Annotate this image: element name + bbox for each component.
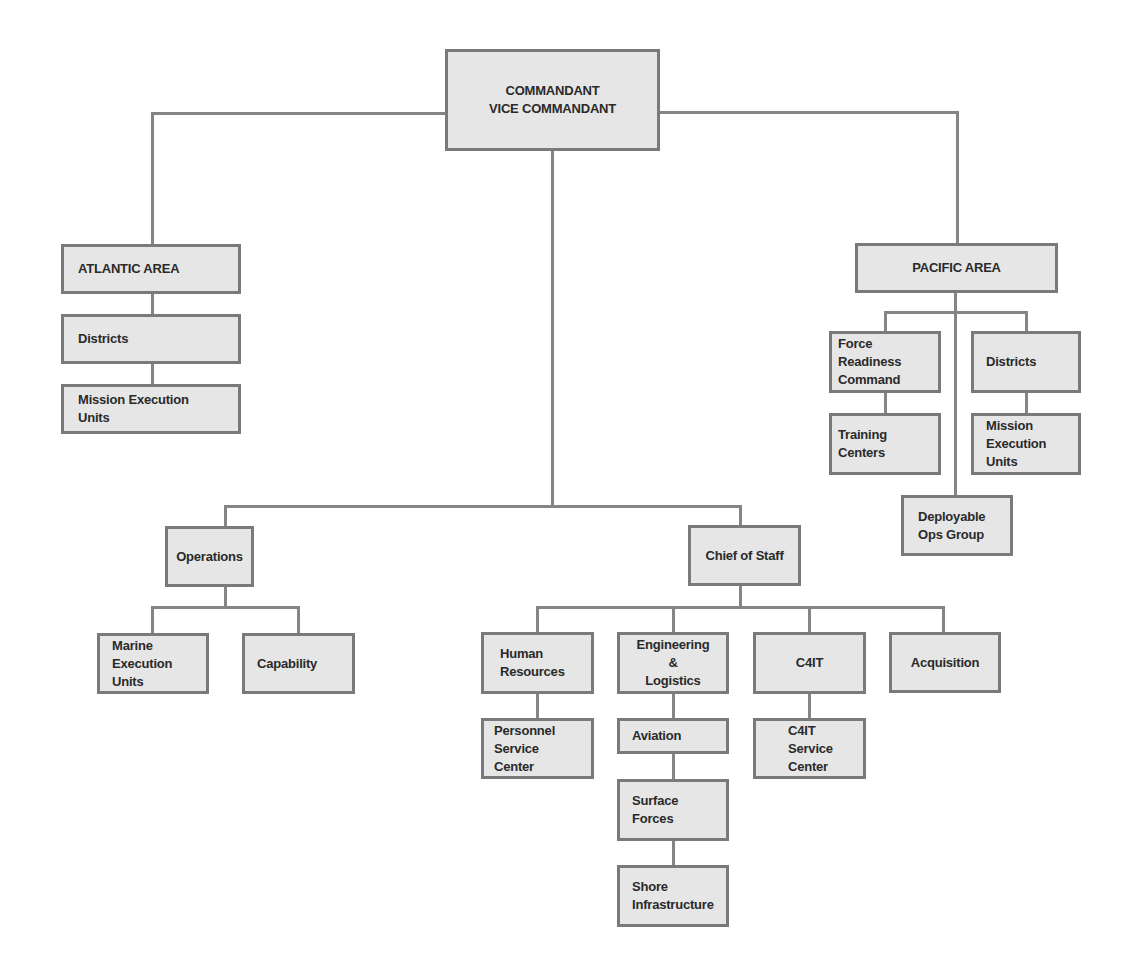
- operations-label: Operations: [176, 548, 243, 566]
- deployable-ops-label: Deployable Ops Group: [918, 508, 985, 544]
- pacific-mission-execution-label: Mission Execution Units: [986, 417, 1046, 471]
- connector-line: [739, 584, 742, 607]
- c4it-node[interactable]: C4IT: [753, 632, 866, 694]
- connector-line: [151, 292, 154, 315]
- connector-line: [536, 692, 539, 719]
- force-readiness-node[interactable]: Force Readiness Command: [829, 331, 941, 393]
- human-resources-node[interactable]: Human Resources: [481, 632, 594, 694]
- connector-line: [151, 112, 446, 115]
- connector-line: [151, 606, 300, 609]
- connector-line: [672, 752, 675, 780]
- pacific-area-label: PACIFIC AREA: [912, 259, 1001, 277]
- connector-line: [672, 839, 675, 866]
- atlantic-area-node[interactable]: ATLANTIC AREA: [61, 244, 241, 294]
- atlantic-mission-execution-label: Mission Execution Units: [78, 391, 189, 427]
- org-chart: COMMANDANT VICE COMMANDANT ATLANTIC AREA…: [0, 0, 1133, 968]
- connector-line: [151, 112, 154, 245]
- surface-forces-label: Surface Forces: [632, 792, 678, 828]
- connector-line: [884, 311, 887, 332]
- training-centers-node[interactable]: Training Centers: [829, 413, 941, 475]
- connector-line: [657, 111, 959, 114]
- connector-line: [1025, 392, 1028, 414]
- capability-label: Capability: [257, 655, 317, 673]
- atlantic-mission-execution-node[interactable]: Mission Execution Units: [61, 384, 241, 434]
- vice-commandant-label: VICE COMMANDANT: [489, 100, 616, 118]
- aviation-label: Aviation: [632, 727, 681, 745]
- connector-line: [536, 606, 539, 633]
- chief-of-staff-node[interactable]: Chief of Staff: [688, 525, 801, 586]
- connector-line: [224, 505, 227, 527]
- personnel-service-node[interactable]: Personnel Service Center: [481, 718, 594, 779]
- connector-line: [954, 291, 957, 496]
- shore-infrastructure-node[interactable]: Shore Infrastructure: [617, 865, 729, 927]
- pacific-mission-execution-node[interactable]: Mission Execution Units: [971, 413, 1081, 475]
- c4it-service-node[interactable]: C4IT Service Center: [753, 718, 866, 779]
- marine-execution-node[interactable]: Marine Execution Units: [97, 633, 209, 694]
- connector-line: [739, 505, 742, 526]
- engineering-logistics-node[interactable]: Engineering & Logistics: [617, 632, 729, 694]
- pacific-districts-label: Districts: [986, 353, 1036, 371]
- shore-infrastructure-label: Shore Infrastructure: [632, 878, 714, 914]
- connector-line: [808, 692, 811, 719]
- atlantic-districts-label: Districts: [78, 330, 128, 348]
- acquisition-label: Acquisition: [911, 654, 980, 672]
- deployable-ops-node[interactable]: Deployable Ops Group: [901, 495, 1013, 556]
- atlantic-area-label: ATLANTIC AREA: [78, 260, 179, 278]
- commandant-node[interactable]: COMMANDANT VICE COMMANDANT: [445, 49, 660, 151]
- surface-forces-node[interactable]: Surface Forces: [617, 779, 729, 841]
- connector-line: [224, 505, 742, 508]
- engineering-logistics-label: Engineering & Logistics: [637, 636, 710, 690]
- aviation-node[interactable]: Aviation: [617, 718, 729, 754]
- connector-line: [672, 606, 675, 633]
- commandant-label: COMMANDANT: [505, 82, 599, 100]
- connector-line: [151, 606, 154, 634]
- connector-line: [551, 149, 554, 507]
- c4it-label: C4IT: [796, 654, 823, 672]
- connector-line: [942, 606, 945, 633]
- pacific-area-node[interactable]: PACIFIC AREA: [855, 243, 1058, 293]
- connector-line: [151, 363, 154, 385]
- capability-node[interactable]: Capability: [242, 633, 355, 694]
- connector-line: [808, 606, 811, 633]
- force-readiness-label: Force Readiness Command: [838, 335, 901, 389]
- human-resources-label: Human Resources: [500, 645, 565, 681]
- atlantic-districts-node[interactable]: Districts: [61, 314, 241, 364]
- training-centers-label: Training Centers: [838, 426, 887, 462]
- connector-line: [884, 392, 887, 414]
- connector-line: [884, 311, 1028, 314]
- personnel-service-label: Personnel Service Center: [494, 722, 555, 776]
- connector-line: [956, 111, 959, 244]
- connector-line: [1025, 311, 1028, 332]
- operations-node[interactable]: Operations: [165, 526, 254, 587]
- connector-line: [224, 585, 227, 608]
- c4it-service-label: C4IT Service Center: [788, 722, 833, 776]
- pacific-districts-node[interactable]: Districts: [971, 331, 1081, 393]
- marine-execution-label: Marine Execution Units: [112, 637, 172, 691]
- connector-line: [672, 692, 675, 719]
- connector-line: [297, 606, 300, 634]
- acquisition-node[interactable]: Acquisition: [889, 632, 1001, 693]
- connector-line: [536, 606, 945, 609]
- chief-of-staff-label: Chief of Staff: [705, 547, 783, 565]
